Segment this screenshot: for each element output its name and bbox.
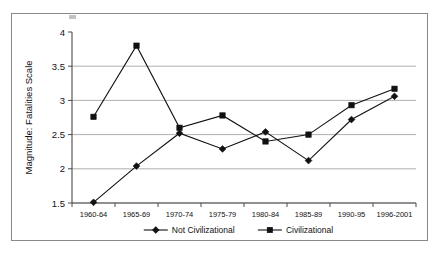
data-point [392,86,397,91]
x-tick-label: 1960-64 [80,210,108,219]
data-point [220,113,225,118]
data-point [263,139,268,144]
line-chart-plot: 1.522.533.541960-641965-691970-741975-79… [12,14,427,240]
legend-item-1[interactable]: Civilizational [258,225,333,235]
legend-marker-diamond [152,227,159,234]
series-path [94,96,395,202]
x-tick-label: 1975-79 [209,210,237,219]
x-tick-label: 1980-84 [252,210,280,219]
y-tick-label: 2.5 [52,129,65,140]
series-path [94,46,395,142]
y-axis-title: Magnitude: Fatalities Scale [23,60,34,174]
series-not-civilizational [90,93,398,206]
data-point [91,114,96,119]
y-tick-label: 2 [60,163,65,174]
y-tick-label: 3 [60,95,65,106]
x-tick-label: 1990-95 [338,210,366,219]
data-point [219,146,226,153]
x-tick-label: 1965-69 [123,210,151,219]
legend-marker-square [267,227,272,232]
y-tick-label: 4 [60,27,65,38]
data-point [349,102,354,107]
legend-label: Civilizational [286,225,333,235]
legend-label: Not Civilizational [172,225,235,235]
x-tick-label: 1970-74 [166,210,194,219]
data-point [134,43,139,48]
x-tick-label: 1996-2001 [377,210,413,219]
y-tick-label: 1.5 [52,198,65,209]
data-point [177,125,182,130]
data-point [391,93,398,100]
chart-container: 1.522.533.541960-641965-691970-741975-79… [11,13,428,241]
data-point [306,132,311,137]
y-tick-label: 3.5 [52,61,65,72]
series-civilizational [91,43,397,144]
x-tick-label: 1985-89 [295,210,323,219]
legend-item-0[interactable]: Not Civilizational [144,225,235,235]
